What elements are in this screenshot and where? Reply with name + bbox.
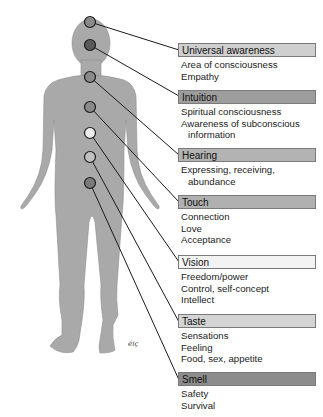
- dot-taste: [85, 152, 96, 163]
- description-line: information: [181, 129, 318, 141]
- description: Expressing, receiving, abundance: [178, 164, 318, 187]
- label-box: Universal awareness: [178, 43, 316, 57]
- description: Connection Love Acceptance: [178, 211, 318, 246]
- description-line: Connection: [181, 211, 318, 223]
- label-box: Hearing: [178, 148, 316, 162]
- description-line: Food, sex, appetite: [181, 353, 318, 365]
- description-line: Sensations: [181, 330, 318, 342]
- description-line: abundance: [181, 176, 318, 188]
- dot-hearing: [85, 72, 96, 83]
- description-line: Feeling: [181, 342, 318, 354]
- description-line: Love: [181, 223, 318, 235]
- label-taste: Taste Sensations Feeling Food, sex, appe…: [178, 314, 318, 365]
- description-line: Expressing, receiving,: [181, 164, 318, 176]
- description: Freedom/power Control, self-concept Inte…: [178, 271, 318, 306]
- description: Safety Survival: [178, 388, 318, 411]
- artist-signature: éiç: [128, 340, 138, 348]
- description-line: Area of consciousness: [181, 59, 318, 71]
- description: Sensations Feeling Food, sex, appetite: [178, 330, 318, 365]
- label-smell: Smell Safety Survival: [178, 372, 318, 411]
- dot-smell: [85, 178, 96, 189]
- label-touch: Touch Connection Love Acceptance: [178, 195, 318, 246]
- description-line: Acceptance: [181, 234, 318, 246]
- label-hearing: Hearing Expressing, receiving, abundance: [178, 148, 318, 187]
- label-box: Vision: [178, 255, 316, 269]
- label-box: Intuition: [178, 90, 316, 104]
- label-box: Smell: [178, 372, 316, 386]
- dot-vision: [85, 128, 96, 139]
- description-line: Spiritual consciousness: [181, 106, 318, 118]
- description: Spiritual consciousness Awareness of sub…: [178, 106, 318, 141]
- dot-intuition: [85, 40, 96, 51]
- label-box: Touch: [178, 195, 316, 209]
- description-line: Survival: [181, 400, 318, 412]
- description-line: Awareness of subconscious: [181, 118, 318, 130]
- description-line: Empathy: [181, 71, 318, 83]
- dot-universal-awareness: [85, 17, 96, 28]
- label-intuition: Intuition Spiritual consciousness Awaren…: [178, 90, 318, 141]
- description-line: Control, self-concept: [181, 283, 318, 295]
- label-box: Taste: [178, 314, 316, 328]
- description-line: Safety: [181, 388, 318, 400]
- label-vision: Vision Freedom/power Control, self-conce…: [178, 255, 318, 306]
- description: Area of consciousness Empathy: [178, 59, 318, 82]
- dot-touch: [85, 102, 96, 113]
- label-universal-awareness: Universal awareness Area of consciousnes…: [178, 43, 318, 82]
- description-line: Intellect: [181, 294, 318, 306]
- description-line: Freedom/power: [181, 271, 318, 283]
